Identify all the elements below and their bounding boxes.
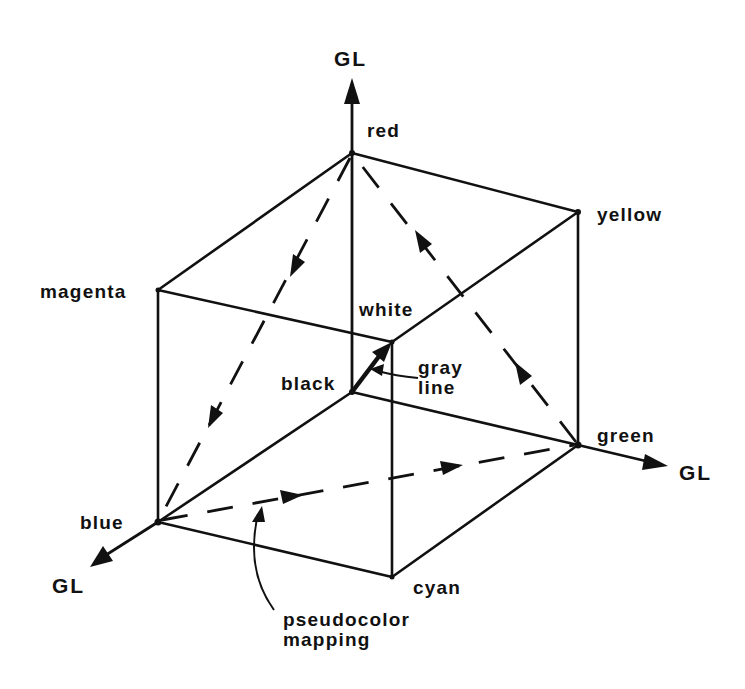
pseudocolor-mapping-label: pseudocolor mapping xyxy=(283,610,410,650)
gray-line-label-line2: line xyxy=(418,378,463,398)
edge-red-magenta xyxy=(158,153,352,290)
red-blue-arrowhead-2-icon xyxy=(208,405,223,428)
vertex-label-red: red xyxy=(367,121,400,140)
pseudocolor-pointer-icon xyxy=(252,506,265,522)
gray-line-label: gray line xyxy=(418,358,463,398)
dash-blue-green xyxy=(162,445,574,520)
vertex-label-black: black xyxy=(281,374,336,393)
green-red-arrowhead-2-icon xyxy=(515,362,532,385)
blue-green-arrowhead-2-icon xyxy=(440,461,463,475)
blue-axis-label: GL xyxy=(52,575,85,596)
green-axis-arrowhead-icon xyxy=(642,454,668,470)
vertex-label-cyan: cyan xyxy=(413,578,461,597)
edge-red-yellow xyxy=(352,153,578,212)
axes xyxy=(90,78,668,567)
red-axis-arrowhead-icon xyxy=(344,78,360,104)
red-axis-label: GL xyxy=(334,48,367,69)
color-cube-diagram xyxy=(0,0,745,689)
dash-red-blue xyxy=(160,158,350,518)
pseudocolor-path xyxy=(160,157,576,610)
green-axis xyxy=(578,445,650,462)
vertex-label-magenta: magenta xyxy=(40,282,127,301)
vertex-label-white: white xyxy=(359,300,414,319)
pseudocolor-label-line2: mapping xyxy=(283,630,410,650)
vertex-label-green: green xyxy=(597,426,655,445)
edge-green-cyan xyxy=(392,445,578,577)
pseudocolor-label-line1: pseudocolor xyxy=(283,610,410,630)
green-axis-label: GL xyxy=(679,462,712,483)
edge-blue-cyan xyxy=(158,522,392,577)
gray-line xyxy=(352,342,418,392)
vertex-label-yellow: yellow xyxy=(597,205,662,224)
blue-axis-arrowhead-icon xyxy=(90,546,113,567)
red-blue-arrowhead-1-icon xyxy=(290,254,305,277)
blue-green-arrowhead-1-icon xyxy=(280,490,303,504)
gray-line-label-line1: gray xyxy=(418,358,463,378)
green-red-arrowhead-1-icon xyxy=(415,230,432,253)
vertex-label-blue: blue xyxy=(80,513,124,532)
